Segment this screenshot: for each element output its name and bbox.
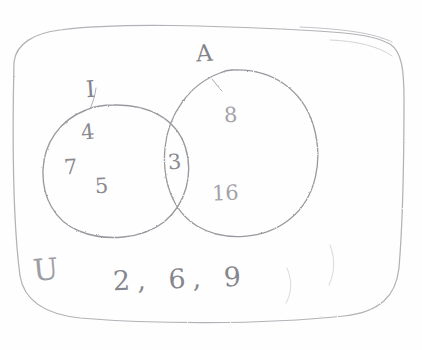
element-3-intersection: 3: [167, 151, 182, 173]
outside-elements-list: 2, 6, 9: [113, 263, 249, 295]
venn-diagram-canvas: I A 4 7 5 3 8 16 U 2, 6, 9: [0, 0, 422, 350]
set-label-a: A: [195, 42, 213, 66]
element-16: 16: [212, 183, 239, 205]
stray-pencil-marks: [286, 245, 334, 303]
universe-symbol: U: [32, 254, 60, 286]
element-7: 7: [63, 157, 78, 179]
element-8: 8: [224, 105, 238, 126]
element-4: 4: [80, 121, 95, 143]
element-5: 5: [94, 176, 108, 198]
set-label-i: I: [85, 78, 96, 102]
